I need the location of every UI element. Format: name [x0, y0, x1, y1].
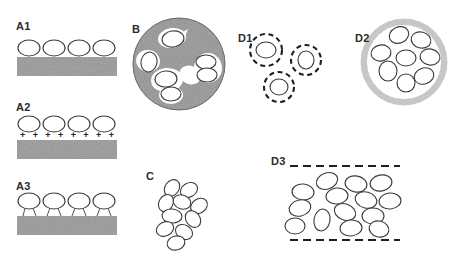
vesicle	[18, 40, 40, 56]
charge-symbol: +	[33, 131, 38, 140]
tether-group-a3	[23, 208, 111, 216]
vesicle	[344, 174, 368, 194]
vesicle	[270, 79, 288, 95]
vesicle	[196, 55, 216, 69]
charge-symbol: +	[71, 131, 76, 140]
vesicle	[287, 197, 312, 218]
vesicle	[43, 40, 65, 56]
vesicle	[369, 173, 393, 193]
panel-b	[133, 18, 225, 110]
tether-leg	[97, 208, 100, 216]
tether-leg	[83, 208, 86, 216]
panel-label-a1: A1	[16, 20, 30, 32]
vesicle	[396, 50, 416, 66]
vesicle	[18, 193, 40, 209]
panel-a3	[17, 193, 117, 235]
vesicle	[370, 43, 392, 62]
vesicle	[419, 47, 441, 66]
vesicle	[378, 192, 401, 210]
vesicle	[285, 218, 305, 234]
panel-d1	[250, 34, 321, 102]
tether-leg	[108, 208, 111, 216]
charge-symbol: +	[58, 131, 63, 140]
charge-row-a2: ++++++++	[20, 131, 114, 140]
vesicle	[312, 208, 332, 232]
vesicle	[339, 219, 362, 237]
panel-label-b: B	[132, 23, 140, 35]
vesicle-row-a3	[18, 193, 115, 209]
vesicle	[197, 68, 217, 82]
vesicle	[298, 51, 314, 69]
vesicle	[256, 42, 276, 58]
panel-label-a2: A2	[16, 101, 30, 113]
tether-leg	[47, 208, 50, 216]
panel-label-a3: A3	[16, 180, 30, 192]
vesicle	[397, 74, 415, 92]
panel-label-c: C	[146, 170, 154, 182]
panel-c	[154, 177, 211, 252]
vesicle	[68, 40, 90, 56]
tether-leg	[23, 208, 25, 216]
vesicle	[379, 61, 397, 81]
panel-label-d3: D3	[271, 155, 285, 167]
vesicle	[291, 183, 314, 201]
figure-canvas	[0, 0, 460, 260]
vesicle-row-a1	[18, 40, 115, 56]
charge-symbol: +	[20, 131, 25, 140]
vesicle	[43, 193, 65, 209]
substrate-bar-a3	[17, 216, 117, 235]
vesicle	[325, 187, 348, 205]
panel-d2	[361, 19, 447, 105]
vesicle-group-d3	[285, 170, 402, 240]
vesicle	[68, 193, 90, 209]
panel-label-d2: D2	[355, 32, 369, 44]
vesicle	[93, 193, 115, 209]
vesicle	[93, 40, 115, 56]
charge-symbol: +	[109, 131, 114, 140]
vesicle	[161, 87, 181, 101]
panel-label-d1: D1	[238, 32, 252, 44]
tether-leg	[72, 208, 75, 216]
tether-leg	[33, 208, 36, 216]
panel-a1	[17, 40, 117, 76]
charge-symbol: +	[83, 131, 88, 140]
charge-symbol: +	[45, 131, 50, 140]
tether-leg	[58, 208, 61, 216]
panel-d3	[285, 166, 402, 240]
charge-symbol: +	[96, 131, 101, 140]
substrate-bar-a1	[17, 57, 117, 76]
substrate-bar-a2	[17, 140, 117, 159]
